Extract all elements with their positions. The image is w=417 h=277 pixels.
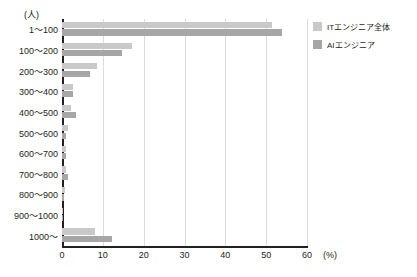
- y-axis-unit-label: (人): [24, 8, 39, 21]
- y-axis-category-label: 500～600: [0, 127, 58, 140]
- x-axis-tick-label: 40: [220, 250, 230, 260]
- x-axis-tick-label: 50: [261, 250, 271, 260]
- y-axis-category-label: 400～500: [0, 106, 58, 119]
- chart-row: [62, 143, 307, 164]
- x-axis-tick-label: 20: [139, 250, 149, 260]
- chart-row: [62, 184, 307, 205]
- bar-ai-engineers: [62, 236, 112, 242]
- bar-it-engineers: [62, 125, 68, 131]
- bar-ai-engineers: [62, 71, 90, 77]
- bar-it-engineers: [62, 228, 95, 234]
- bar-it-engineers: [62, 105, 71, 111]
- x-axis-tick-label: 30: [179, 250, 189, 260]
- bar-ai-engineers: [62, 29, 282, 35]
- chart-row: [62, 122, 307, 143]
- bar-it-engineers: [62, 208, 63, 214]
- chart-legend: ITエンジニア全体 AIエンジニア: [313, 21, 390, 50]
- bar-ai-engineers: [62, 50, 122, 56]
- bar-ai-engineers: [62, 174, 68, 180]
- y-axis-category-label: 100～200: [0, 44, 58, 57]
- chart-row: [62, 205, 307, 226]
- bar-it-engineers: [62, 63, 97, 69]
- bar-it-engineers: [62, 84, 73, 90]
- bar-ai-engineers: [62, 133, 66, 139]
- y-axis-category-label: 1～100: [0, 23, 58, 36]
- chart-row: [62, 81, 307, 102]
- bar-ai-engineers: [62, 112, 76, 118]
- chart-row: [62, 19, 307, 40]
- y-axis-category-label: 900～1000: [0, 209, 58, 222]
- chart-row: [62, 40, 307, 61]
- bar-it-engineers: [62, 43, 132, 49]
- bar-ai-engineers: [62, 91, 73, 97]
- bar-it-engineers: [62, 146, 66, 152]
- legend-swatch-it-engineers: [313, 22, 322, 31]
- legend-item-it-engineers: ITエンジニア全体: [313, 21, 390, 32]
- y-axis-category-label: 300～400: [0, 85, 58, 98]
- x-axis-line: [62, 246, 308, 248]
- legend-label-it-engineers: ITエンジニア全体: [327, 21, 390, 32]
- bar-it-engineers: [62, 22, 272, 28]
- bar-ai-engineers: [62, 215, 63, 221]
- gridline: [307, 19, 308, 246]
- y-axis-category-label: 1000～: [0, 230, 58, 243]
- chart-row: [62, 163, 307, 184]
- y-axis-category-label: 700～800: [0, 168, 58, 181]
- bar-ai-engineers: [62, 194, 64, 200]
- x-axis-tick-label: 60: [302, 250, 312, 260]
- bar-it-engineers: [62, 187, 65, 193]
- chart-container: (人) 0102030405060 (%) ITエンジニア全体 AIエンジニア …: [0, 0, 417, 277]
- y-axis-category-label: 600～700: [0, 147, 58, 160]
- x-axis-unit-label: (%): [323, 250, 337, 260]
- plot-area: [62, 19, 307, 246]
- legend-swatch-ai-engineers: [313, 40, 322, 49]
- chart-row: [62, 60, 307, 81]
- legend-item-ai-engineers: AIエンジニア: [313, 39, 390, 50]
- bar-it-engineers: [62, 166, 66, 172]
- y-axis-category-label: 800～900: [0, 188, 58, 201]
- x-axis-tick-label: 10: [98, 250, 108, 260]
- chart-row: [62, 102, 307, 123]
- chart-row: [62, 225, 307, 246]
- legend-label-ai-engineers: AIエンジニア: [327, 39, 375, 50]
- y-axis-category-label: 200～300: [0, 65, 58, 78]
- bar-ai-engineers: [62, 153, 66, 159]
- x-axis-tick-label: 0: [59, 250, 64, 260]
